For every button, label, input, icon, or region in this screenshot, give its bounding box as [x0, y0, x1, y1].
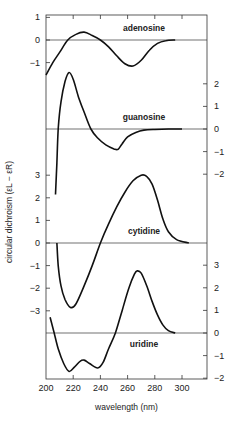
x-tick-label: 300 — [174, 383, 189, 393]
adenosine-y-tick-label: 0 — [35, 35, 40, 45]
x-tick-label: 240 — [93, 383, 108, 393]
cytidine-y-tick-label: −2 — [30, 283, 40, 293]
guanosine-y-tick-label: 2 — [214, 79, 219, 89]
cytidine-label: cytidine — [128, 226, 160, 236]
uridine-label: uridine — [130, 339, 159, 349]
cytidine-y-tick-label: −3 — [30, 306, 40, 316]
cytidine-y-tick-label: 1 — [35, 215, 40, 225]
adenosine-y-tick-label: −1 — [30, 58, 40, 68]
cytidine-y-tick-label: −1 — [30, 261, 40, 271]
x-axis-label: wavelength (nm) — [46, 402, 207, 412]
x-tick-label: 280 — [147, 383, 162, 393]
adenosine-label: adenosine — [123, 23, 165, 33]
guanosine-y-tick-label: −1 — [214, 147, 224, 157]
uridine-y-tick-label: −2 — [214, 373, 224, 383]
cd-spectra-chart: 20022024026028030010−1adenosine210−1−2gu… — [0, 0, 238, 426]
y-axis-label: circular dichroism (εL − εR) — [2, 0, 16, 426]
x-tick-label: 260 — [120, 383, 135, 393]
guanosine-label: guanosine — [123, 112, 166, 122]
y-axis-label-text: circular dichroism (εL − εR) — [4, 161, 14, 263]
guanosine-y-tick-label: −2 — [214, 169, 224, 179]
uridine-y-tick-label: 0 — [214, 328, 219, 338]
guanosine-y-tick-label: 1 — [214, 101, 219, 111]
uridine-curve — [50, 271, 175, 372]
guanosine-y-tick-label: 0 — [214, 124, 219, 134]
uridine-y-tick-label: 3 — [214, 260, 219, 270]
adenosine-curve — [46, 32, 175, 75]
x-tick-label: 200 — [38, 383, 53, 393]
cytidine-y-tick-label: 0 — [35, 238, 40, 248]
cytidine-y-tick-label: 2 — [35, 193, 40, 203]
uridine-y-tick-label: 2 — [214, 283, 219, 293]
uridine-y-tick-label: −1 — [214, 351, 224, 361]
x-tick-label: 220 — [66, 383, 81, 393]
guanosine-curve — [56, 72, 183, 194]
cytidine-curve — [57, 175, 189, 308]
uridine-y-tick-label: 1 — [214, 305, 219, 315]
plot-frame — [46, 15, 207, 379]
cytidine-y-tick-label: 3 — [35, 170, 40, 180]
adenosine-y-tick-label: 1 — [35, 12, 40, 22]
